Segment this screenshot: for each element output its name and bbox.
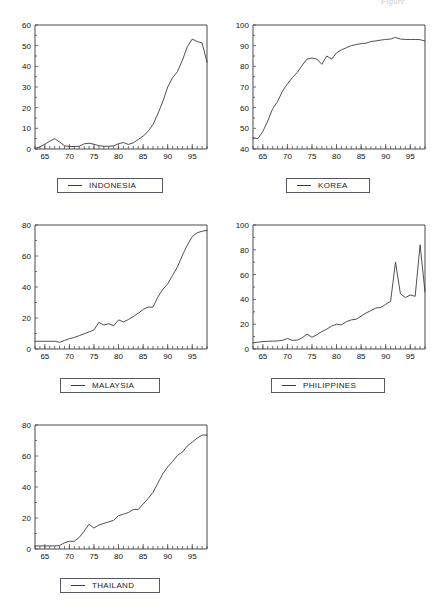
svg-text:80: 80 bbox=[332, 152, 341, 161]
svg-text:85: 85 bbox=[139, 352, 148, 361]
legend-indonesia: INDONESIA bbox=[57, 178, 163, 193]
legend-line-swatch-icon bbox=[297, 185, 311, 186]
svg-text:80: 80 bbox=[114, 152, 123, 161]
svg-text:0: 0 bbox=[27, 345, 32, 354]
svg-text:80: 80 bbox=[332, 352, 341, 361]
svg-text:60: 60 bbox=[240, 271, 249, 280]
svg-text:95: 95 bbox=[188, 552, 197, 561]
svg-text:100: 100 bbox=[236, 221, 250, 230]
svg-text:80: 80 bbox=[114, 552, 123, 561]
plot-area-indonesia: 657075808590950102030405060 bbox=[4, 6, 216, 176]
svg-text:40: 40 bbox=[22, 483, 31, 492]
svg-text:65: 65 bbox=[40, 152, 49, 161]
chart-panel-indonesia: 657075808590950102030405060 INDONESIA bbox=[4, 6, 216, 206]
legend-malaysia: MALAYSIA bbox=[60, 378, 160, 393]
svg-text:100: 100 bbox=[236, 21, 250, 30]
plot-svg-korea: 65707580859095405060708090100 bbox=[222, 6, 434, 176]
svg-text:90: 90 bbox=[381, 152, 390, 161]
svg-text:75: 75 bbox=[90, 552, 99, 561]
svg-text:75: 75 bbox=[90, 352, 99, 361]
svg-text:80: 80 bbox=[22, 221, 31, 230]
legend-line-swatch-icon bbox=[282, 385, 296, 386]
svg-text:70: 70 bbox=[283, 352, 292, 361]
plot-svg-philippines: 65707580859095020406080100 bbox=[222, 206, 434, 376]
plot-svg-thailand: 65707580859095020406080 bbox=[4, 406, 216, 576]
plot-area-malaysia: 65707580859095020406080 bbox=[4, 206, 216, 376]
svg-text:75: 75 bbox=[308, 152, 317, 161]
svg-text:0: 0 bbox=[245, 345, 250, 354]
legend-line-swatch-icon bbox=[68, 185, 82, 186]
svg-text:60: 60 bbox=[22, 452, 31, 461]
svg-text:75: 75 bbox=[308, 352, 317, 361]
svg-text:65: 65 bbox=[40, 552, 49, 561]
svg-text:80: 80 bbox=[240, 246, 249, 255]
legend-label-thailand: THAILAND bbox=[92, 582, 134, 590]
svg-text:85: 85 bbox=[139, 552, 148, 561]
svg-text:95: 95 bbox=[188, 352, 197, 361]
plot-area-philippines: 65707580859095020406080100 bbox=[222, 206, 434, 376]
svg-text:10: 10 bbox=[22, 124, 31, 133]
legend-philippines: PHILIPPINES bbox=[271, 378, 385, 393]
svg-text:90: 90 bbox=[163, 152, 172, 161]
chart-panel-korea: 65707580859095405060708090100 KOREA bbox=[222, 6, 434, 206]
svg-text:80: 80 bbox=[114, 352, 123, 361]
svg-text:65: 65 bbox=[258, 352, 267, 361]
plot-svg-malaysia: 65707580859095020406080 bbox=[4, 206, 216, 376]
plot-area-korea: 65707580859095405060708090100 bbox=[222, 6, 434, 176]
plot-area-thailand: 65707580859095020406080 bbox=[4, 406, 216, 576]
svg-text:90: 90 bbox=[240, 42, 249, 51]
svg-text:40: 40 bbox=[240, 145, 249, 154]
legend-label-korea: KOREA bbox=[318, 182, 348, 190]
svg-text:90: 90 bbox=[163, 352, 172, 361]
svg-text:80: 80 bbox=[240, 62, 249, 71]
svg-text:65: 65 bbox=[40, 352, 49, 361]
svg-text:70: 70 bbox=[240, 83, 249, 92]
legend-thailand: THAILAND bbox=[60, 578, 160, 593]
legend-line-swatch-icon bbox=[71, 385, 85, 386]
svg-text:85: 85 bbox=[357, 352, 366, 361]
legend-label-malaysia: MALAYSIA bbox=[92, 382, 134, 390]
svg-text:40: 40 bbox=[240, 295, 249, 304]
svg-text:60: 60 bbox=[22, 21, 31, 30]
svg-text:20: 20 bbox=[240, 320, 249, 329]
svg-text:50: 50 bbox=[240, 124, 249, 133]
svg-text:20: 20 bbox=[22, 104, 31, 113]
svg-text:50: 50 bbox=[22, 42, 31, 51]
svg-text:70: 70 bbox=[65, 152, 74, 161]
svg-text:40: 40 bbox=[22, 62, 31, 71]
chart-panel-philippines: 65707580859095020406080100 PHILIPPINES bbox=[222, 206, 434, 406]
svg-text:70: 70 bbox=[65, 352, 74, 361]
svg-text:60: 60 bbox=[22, 252, 31, 261]
svg-text:95: 95 bbox=[406, 152, 415, 161]
svg-text:60: 60 bbox=[240, 104, 249, 113]
svg-text:85: 85 bbox=[357, 152, 366, 161]
legend-korea: KOREA bbox=[286, 178, 370, 193]
svg-text:0: 0 bbox=[27, 145, 32, 154]
svg-text:85: 85 bbox=[139, 152, 148, 161]
svg-text:95: 95 bbox=[406, 352, 415, 361]
legend-label-philippines: PHILIPPINES bbox=[303, 382, 356, 390]
svg-text:70: 70 bbox=[283, 152, 292, 161]
legend-label-indonesia: INDONESIA bbox=[89, 182, 136, 190]
svg-text:30: 30 bbox=[22, 83, 31, 92]
svg-text:95: 95 bbox=[188, 152, 197, 161]
svg-text:20: 20 bbox=[22, 314, 31, 323]
svg-text:75: 75 bbox=[90, 152, 99, 161]
chart-panel-thailand: 65707580859095020406080 THAILAND bbox=[4, 406, 216, 606]
svg-text:40: 40 bbox=[22, 283, 31, 292]
svg-text:90: 90 bbox=[381, 352, 390, 361]
svg-text:65: 65 bbox=[258, 152, 267, 161]
legend-line-swatch-icon bbox=[71, 585, 85, 586]
svg-text:80: 80 bbox=[22, 421, 31, 430]
svg-text:0: 0 bbox=[27, 545, 32, 554]
svg-text:70: 70 bbox=[65, 552, 74, 561]
plot-svg-indonesia: 657075808590950102030405060 bbox=[4, 6, 216, 176]
svg-text:20: 20 bbox=[22, 514, 31, 523]
svg-text:90: 90 bbox=[163, 552, 172, 561]
chart-panel-malaysia: 65707580859095020406080 MALAYSIA bbox=[4, 206, 216, 406]
